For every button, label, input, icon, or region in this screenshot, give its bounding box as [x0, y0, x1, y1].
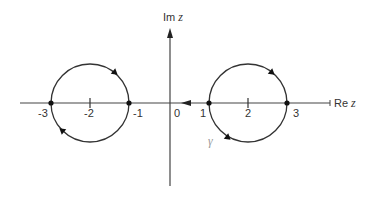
imaginary-axis-arrow-icon	[167, 28, 173, 38]
tick-label-neg3: -3	[38, 107, 48, 119]
real-axis-label: Rez	[334, 96, 356, 110]
tick-label-neg2: -2	[84, 107, 94, 119]
point-pos3	[284, 100, 289, 105]
point-pos1	[206, 100, 211, 105]
origin-label: 0	[174, 107, 180, 119]
contour-label-gamma: γ	[208, 134, 213, 148]
tick-label-pos1: 1	[200, 107, 206, 119]
complex-plane-diagram: -3 -2 -1 0 1 2 3 Rez Imz γ	[0, 0, 373, 197]
real-axis-left-arrow-icon	[181, 100, 191, 106]
point-neg1	[126, 100, 131, 105]
imaginary-axis-label: Imz	[163, 10, 183, 24]
tick-label-pos2: 2	[245, 107, 251, 119]
point-neg3	[48, 100, 53, 105]
tick-label-pos3: 3	[293, 107, 299, 119]
tick-label-neg1: -1	[133, 107, 143, 119]
